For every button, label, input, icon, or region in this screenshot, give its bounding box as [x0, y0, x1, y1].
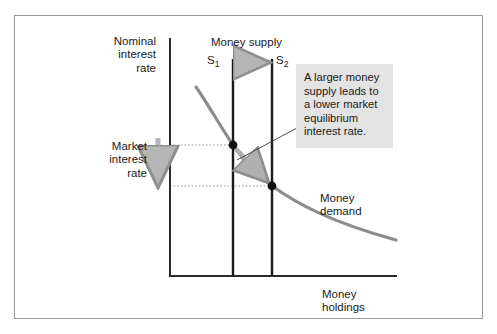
callout-box: A larger money supply leads to a lower m… [296, 64, 393, 148]
callout-pointer-line [237, 128, 297, 160]
market-interest-rate-label: Market interest rate [85, 140, 147, 180]
supply-curve-s1-label: S1 [207, 54, 219, 72]
money-market-diagram: Nominal interest rate Market interest ra… [0, 0, 497, 334]
initial-equilibrium-point [229, 141, 238, 150]
money-demand-label: Money demand [320, 192, 400, 219]
new-equilibrium-point [268, 182, 277, 191]
s2-subscript: 2 [284, 59, 289, 69]
callout-text: A larger money supply leads to a lower m… [304, 71, 386, 139]
s1-subscript: 1 [215, 59, 220, 69]
x-axis-label: Money holdings [322, 288, 412, 315]
s1-letter: S [207, 54, 215, 66]
equilibrium-move-arrow [236, 149, 266, 180]
money-supply-label: Money supply [211, 36, 321, 49]
supply-curve-s2-label: S2 [276, 54, 288, 72]
y-axis-label: Nominal interest rate [60, 35, 156, 75]
s2-letter: S [276, 54, 284, 66]
